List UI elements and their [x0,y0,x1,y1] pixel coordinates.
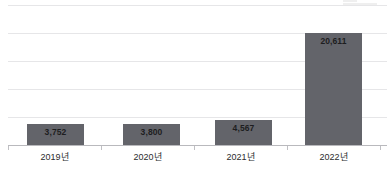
axis-tick [101,146,102,150]
bar-2022[interactable]: 20,611 [305,33,362,145]
x-axis-line [8,145,387,146]
x-axis-label-2019: 2019년 [8,151,101,163]
bar-value-label: 3,752 [27,127,84,137]
axis-tick [380,146,381,150]
axis-tick [194,146,195,150]
gridline-25000 [8,5,387,6]
bar-value-label: 20,611 [305,36,362,46]
bar-chart: 3,752 3,800 4,567 20,611 2019년 2020년 202… [0,0,387,173]
bar-2021[interactable]: 4,567 [215,120,272,145]
bar-2019[interactable]: 3,752 [27,124,84,145]
axis-tick [8,146,9,150]
bar-value-label: 3,800 [123,127,180,137]
x-axis-label-2021: 2021년 [194,151,287,163]
x-axis-label-2020: 2020년 [101,151,194,163]
axis-tick [287,146,288,150]
x-axis-label-2022: 2022년 [287,151,380,163]
bar-2020[interactable]: 3,800 [123,124,180,145]
bar-value-label: 4,567 [215,123,272,133]
plot-area: 3,752 3,800 4,567 20,611 [0,0,387,146]
